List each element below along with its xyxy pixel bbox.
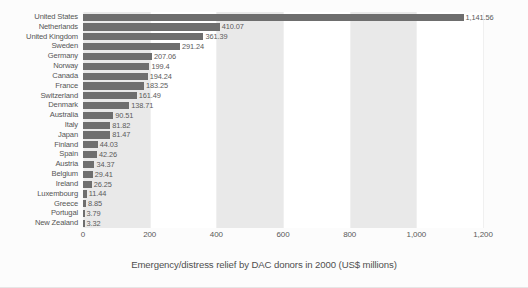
bar-value-label: 194.24 <box>150 72 172 82</box>
bar-value-label: 291.24 <box>182 42 204 52</box>
bar-value-label: 29.41 <box>95 170 113 180</box>
bar[interactable] <box>83 122 110 129</box>
bar[interactable] <box>83 181 92 188</box>
bar[interactable] <box>83 82 144 89</box>
bar-value-label: 183.25 <box>146 81 168 91</box>
bar-value-label: 34.37 <box>96 160 114 170</box>
category-label: Portugal <box>0 208 78 218</box>
category-label: Australia <box>0 110 78 120</box>
bar[interactable] <box>83 171 93 178</box>
bar-value-label: 3.32 <box>87 219 101 229</box>
bar[interactable] <box>83 63 149 70</box>
chart-caption: Emergency/distress relief by DAC donors … <box>0 258 528 271</box>
bar-value-label: 207.06 <box>154 52 176 62</box>
bar[interactable] <box>83 161 94 168</box>
bar-value-label: 26.25 <box>94 180 112 190</box>
bar-value-label: 11.44 <box>89 189 106 199</box>
category-label: Belgium <box>0 169 78 179</box>
bar-value-label: 81.47 <box>112 130 130 140</box>
category-label: Sweden <box>0 41 78 51</box>
bar-value-label: 1,141.56 <box>466 13 494 23</box>
bar[interactable] <box>83 210 85 217</box>
bar[interactable] <box>83 33 203 40</box>
category-label: Italy <box>0 120 78 130</box>
bar[interactable] <box>83 92 137 99</box>
x-axis-tick-label: 200 <box>143 229 156 240</box>
chart-figure: United States1,141.56Netherlands410.07Un… <box>0 0 528 288</box>
bar-value-label: 44.03 <box>100 140 118 150</box>
bar-row[interactable]: New Zealand3.32 <box>0 218 528 229</box>
bar[interactable] <box>83 190 87 197</box>
category-label: France <box>0 81 78 91</box>
bar-value-label: 199.4 <box>151 62 169 72</box>
category-label: United States <box>0 12 78 22</box>
bar[interactable] <box>83 141 98 148</box>
bar-value-label: 90.51 <box>115 111 133 121</box>
category-label: Finland <box>0 140 78 150</box>
category-label: United Kingdom <box>0 32 78 42</box>
category-label: Austria <box>0 159 78 169</box>
bar-value-label: 161.49 <box>139 91 161 101</box>
category-label: New Zealand <box>0 218 78 228</box>
category-label: Switzerland <box>0 91 78 101</box>
category-label: Canada <box>0 71 78 81</box>
bar[interactable] <box>83 112 113 119</box>
bar-value-label: 138.71 <box>131 101 153 111</box>
category-label: Netherlands <box>0 22 78 32</box>
bar-rows: United States1,141.56Netherlands410.07Un… <box>0 12 528 228</box>
bar[interactable] <box>83 43 180 50</box>
bar-value-label: 42.26 <box>99 150 117 160</box>
bar[interactable] <box>83 220 85 227</box>
x-axis-tick-label: 0 <box>81 229 85 240</box>
x-axis-tick-label: 400 <box>210 229 223 240</box>
bar[interactable] <box>83 102 129 109</box>
category-label: Germany <box>0 51 78 61</box>
category-label: Norway <box>0 61 78 71</box>
bar[interactable] <box>83 14 464 21</box>
x-axis-tick-label: 800 <box>343 229 356 240</box>
bar[interactable] <box>83 53 152 60</box>
bar[interactable] <box>83 23 220 30</box>
category-label: Denmark <box>0 100 78 110</box>
category-label: Luxembourg <box>0 189 78 199</box>
category-label: Japan <box>0 130 78 140</box>
bar-value-label: 410.07 <box>222 22 244 32</box>
category-label: Spain <box>0 149 78 159</box>
bar-value-label: 8.85 <box>88 199 102 209</box>
bar-value-label: 361.39 <box>205 32 227 42</box>
category-label: Ireland <box>0 179 78 189</box>
bar[interactable] <box>83 73 148 80</box>
bar[interactable] <box>83 131 110 138</box>
x-axis-tick-label: 1,000 <box>407 229 427 240</box>
bar-value-label: 81.82 <box>112 121 130 131</box>
x-axis-tick-label: 600 <box>276 229 289 240</box>
bar[interactable] <box>83 200 86 207</box>
x-axis-tick-label: 1,200 <box>473 229 493 240</box>
category-label: Greece <box>0 199 78 209</box>
bar-value-label: 3.79 <box>87 209 101 219</box>
x-axis: 02004006008001,0001,200 <box>83 229 483 243</box>
bar[interactable] <box>83 151 97 158</box>
